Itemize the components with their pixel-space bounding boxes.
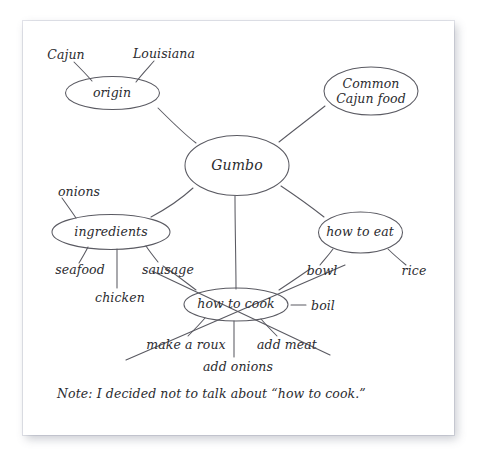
screenshot-canvas: origin Common Cajun food Gumbo ingredien… xyxy=(0,0,481,458)
edge-ingredients-sausage xyxy=(146,246,158,262)
node-label-common-cajun-food-line1: Common xyxy=(336,76,406,91)
edge-ingredients-onions xyxy=(62,198,76,218)
leaf-label-cajun[interactable]: Cajun xyxy=(47,48,85,62)
node-label-common-cajun-food-line2: Cajun food xyxy=(336,91,406,106)
leaf-label-chicken[interactable]: chicken xyxy=(95,291,145,305)
node-label-ingredients[interactable]: ingredients xyxy=(74,225,147,239)
edge-gumbo-common-cajun-food xyxy=(279,106,325,142)
leaf-label-onions[interactable]: onions xyxy=(58,185,100,199)
edge-gumbo-how-to-cook xyxy=(235,196,236,289)
node-label-gumbo[interactable]: Gumbo xyxy=(211,158,262,174)
leaf-label-bowl[interactable]: bowl xyxy=(307,264,338,278)
node-label-how-to-cook[interactable]: how to cook xyxy=(197,297,275,311)
edge-how-to-cook-add-meat xyxy=(261,319,277,336)
leaf-label-rice[interactable]: rice xyxy=(402,264,427,278)
leaf-label-seafood[interactable]: seafood xyxy=(55,263,105,277)
node-label-common-cajun-food[interactable]: Common Cajun food xyxy=(336,76,406,106)
node-label-origin[interactable]: origin xyxy=(93,86,131,100)
edge-gumbo-how-to-eat xyxy=(281,186,324,217)
leaf-label-add-onions[interactable]: add onions xyxy=(203,360,273,374)
edge-ingredients-seafood xyxy=(79,247,88,263)
leaf-label-louisiana[interactable]: Louisiana xyxy=(133,47,195,61)
edge-gumbo-origin xyxy=(158,108,196,143)
edge-gumbo-ingredients xyxy=(151,188,193,217)
node-label-how-to-eat[interactable]: how to eat xyxy=(326,225,394,239)
leaf-label-sausage[interactable]: sausage xyxy=(142,263,194,277)
leaf-label-boil[interactable]: boil xyxy=(311,299,335,313)
leaf-label-make-a-roux[interactable]: make a roux xyxy=(146,338,225,352)
footnote-text: Note: I decided not to talk about “how t… xyxy=(57,387,366,401)
leaf-label-add-meat[interactable]: add meat xyxy=(257,338,317,352)
